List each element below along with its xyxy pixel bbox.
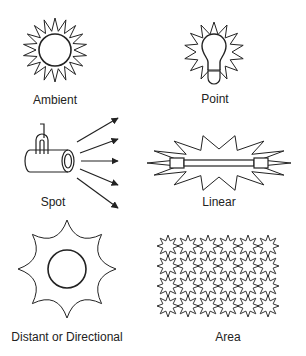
diagram-canvas xyxy=(0,0,306,356)
spotlight-icon xyxy=(25,118,118,208)
label-spot: Spot xyxy=(41,195,66,209)
sun-icon xyxy=(24,18,87,82)
star-grid-icon xyxy=(157,235,279,317)
star-sun-icon xyxy=(18,220,116,318)
label-directional: Distant or Directional xyxy=(11,330,122,344)
label-area: Area xyxy=(215,330,240,344)
label-ambient: Ambient xyxy=(33,93,77,107)
lightbulb-icon xyxy=(185,22,243,84)
tube-light-icon xyxy=(147,136,291,191)
label-linear: Linear xyxy=(202,195,235,209)
label-point: Point xyxy=(201,92,228,106)
